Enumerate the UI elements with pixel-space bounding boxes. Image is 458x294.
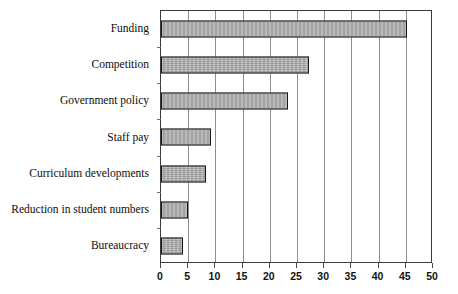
y-axis-label: Government policy <box>60 94 149 106</box>
bar[interactable] <box>161 165 206 182</box>
bar[interactable] <box>161 129 211 146</box>
bar[interactable] <box>161 201 188 218</box>
x-axis-tick <box>160 263 161 268</box>
bar[interactable] <box>161 237 183 254</box>
bar-chart: FundingCompetitionGovernment policyStaff… <box>0 0 458 294</box>
x-axis-tick <box>214 263 215 268</box>
x-axis-tick <box>405 263 406 268</box>
bar[interactable] <box>161 21 407 38</box>
x-axis-tick <box>350 263 351 268</box>
x-axis-tick-label: 50 <box>426 270 438 282</box>
y-axis-tick <box>157 119 161 120</box>
x-axis-tick-label: 20 <box>263 270 275 282</box>
x-axis-tick-label: 45 <box>399 270 411 282</box>
x-axis-tick <box>269 263 270 268</box>
x-axis-tick <box>432 263 433 268</box>
x-axis-tick-label: 0 <box>157 270 163 282</box>
y-axis-tick <box>157 192 161 193</box>
x-axis-tick-label: 30 <box>317 270 329 282</box>
x-axis-tick <box>378 263 379 268</box>
y-axis-label: Curriculum developments <box>29 167 149 179</box>
x-axis-tick-label: 25 <box>290 270 302 282</box>
bar-group <box>161 119 431 155</box>
bar[interactable] <box>161 93 288 110</box>
x-axis-tick-label: 15 <box>236 270 248 282</box>
x-axis: 05101520253035404550 <box>160 263 432 294</box>
y-axis-category-labels: FundingCompetitionGovernment policyStaff… <box>0 10 155 263</box>
y-axis-label: Reduction in student numbers <box>11 203 149 215</box>
x-axis-tick-label: 5 <box>184 270 190 282</box>
bar[interactable] <box>161 57 309 74</box>
plot-area <box>160 10 432 263</box>
y-axis-tick <box>157 83 161 84</box>
x-axis-tick-label: 40 <box>372 270 384 282</box>
bar-group <box>161 192 431 228</box>
x-axis-tick <box>296 263 297 268</box>
x-axis-tick-label: 10 <box>209 270 221 282</box>
y-axis-tick <box>157 228 161 229</box>
bar-group <box>161 47 431 83</box>
bar-group <box>161 156 431 192</box>
y-axis-label: Staff pay <box>107 131 149 143</box>
x-axis-tick <box>323 263 324 268</box>
y-axis-label: Competition <box>92 58 150 70</box>
bar-group <box>161 83 431 119</box>
bar-group <box>161 11 431 47</box>
x-axis-tick <box>187 263 188 268</box>
y-axis-tick <box>157 156 161 157</box>
y-axis-label: Funding <box>111 22 149 34</box>
y-axis-tick <box>157 47 161 48</box>
x-axis-tick <box>242 263 243 268</box>
y-axis-label: Bureaucracy <box>91 239 149 251</box>
bar-group <box>161 228 431 264</box>
x-axis-tick-label: 35 <box>345 270 357 282</box>
